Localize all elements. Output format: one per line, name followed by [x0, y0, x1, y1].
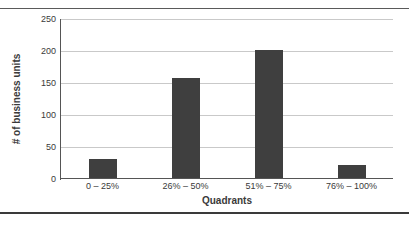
x-axis-title: Quadrants	[61, 195, 393, 206]
x-axis-tick-label: 51% – 75%	[227, 181, 310, 191]
bar-slot	[144, 19, 227, 179]
bar-slot	[310, 19, 393, 179]
y-axis-tick-label: 200	[41, 46, 56, 56]
y-axis-tick-label: 0	[51, 174, 56, 184]
bar-slot	[61, 19, 144, 179]
y-axis-title-text: # of business units	[11, 54, 22, 145]
x-axis-tick-label: 26% – 50%	[144, 181, 227, 191]
bar-slot	[227, 19, 310, 179]
y-axis-tick-label: 100	[41, 110, 56, 120]
bar[interactable]	[89, 159, 117, 179]
x-axis-tick-label: 0 – 25%	[61, 181, 144, 191]
footer-divider	[0, 212, 409, 214]
x-axis-tick-labels: 0 – 25%26% – 50%51% – 75%76% – 100%	[61, 181, 393, 191]
x-axis-tick-label: 76% – 100%	[310, 181, 393, 191]
y-axis-tick-label: 150	[41, 78, 56, 88]
y-axis-title: # of business units	[9, 19, 23, 179]
bar-chart-figure: # of business units 050100150200250 0 – …	[0, 9, 409, 209]
plot-inner: 050100150200250	[61, 19, 393, 179]
bar[interactable]	[172, 78, 200, 179]
y-axis-line	[60, 19, 61, 180]
bar-series	[61, 19, 393, 179]
x-axis-line	[60, 178, 393, 179]
bar[interactable]	[338, 165, 366, 179]
y-axis-tick-label: 250	[41, 14, 56, 24]
y-axis-tick-label: 50	[46, 142, 56, 152]
bar[interactable]	[255, 50, 283, 179]
plot-area: 050100150200250	[61, 19, 393, 179]
